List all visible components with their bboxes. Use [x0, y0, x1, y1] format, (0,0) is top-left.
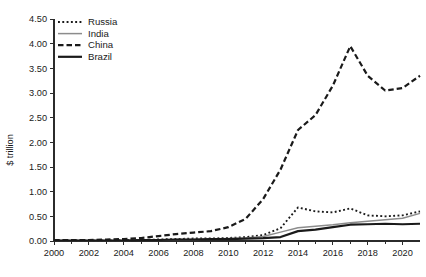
y-tick-label: 3.00 [29, 88, 47, 98]
x-tick-label: 2018 [357, 248, 377, 258]
x-tick-label: 2002 [79, 248, 99, 258]
line-chart: 0.000.501.001.502.002.503.003.504.004.50… [0, 0, 426, 277]
y-tick-label: 3.50 [29, 64, 47, 74]
y-tick-label: 2.50 [29, 113, 47, 123]
chart-legend: RussiaIndiaChinaBrazil [58, 16, 118, 62]
x-tick-label: 2008 [183, 248, 203, 258]
legend-label-brazil: Brazil [88, 51, 112, 62]
y-tick-label: 2.00 [29, 138, 47, 148]
series-line-china [54, 46, 420, 240]
x-tick-label: 2014 [288, 248, 308, 258]
y-tick-label: 4.50 [29, 14, 47, 24]
x-tick-label: 2006 [148, 248, 168, 258]
x-tick-label: 2016 [323, 248, 343, 258]
legend-label-india: India [88, 28, 109, 39]
y-tick-label: 1.50 [29, 162, 47, 172]
y-axis-ticks: 0.000.501.001.502.002.503.003.504.004.50 [29, 14, 54, 246]
x-tick-label: 2000 [44, 248, 64, 258]
x-tick-label: 2010 [218, 248, 238, 258]
series-lines [54, 46, 420, 240]
x-axis-ticks: 2000200220042006200820102012201420162018… [44, 241, 413, 258]
series-line-india [54, 213, 420, 240]
x-tick-label: 2004 [113, 248, 133, 258]
series-line-brazil [54, 224, 420, 241]
y-tick-label: 1.00 [29, 187, 47, 197]
y-tick-label: 0.50 [29, 212, 47, 222]
x-tick-label: 2012 [253, 248, 273, 258]
x-tick-label: 2020 [392, 248, 412, 258]
legend-label-china: China [88, 39, 114, 50]
y-axis-title: $ trillion [5, 134, 15, 166]
legend-label-russia: Russia [88, 16, 118, 27]
y-tick-label: 4.00 [29, 39, 47, 49]
chart-canvas: 0.000.501.001.502.002.503.003.504.004.50… [0, 0, 426, 277]
y-tick-label: 0.00 [29, 236, 47, 246]
